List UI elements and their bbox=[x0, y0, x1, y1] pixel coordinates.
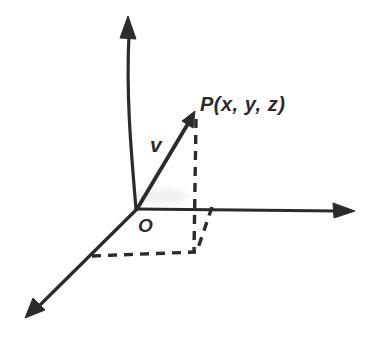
dashed-vertical-drop-line bbox=[194, 119, 196, 252]
horizontal-axis-line bbox=[136, 209, 338, 211]
vector-v-arrowhead-icon bbox=[182, 111, 195, 128]
dashed-slant-line bbox=[197, 207, 212, 251]
vertical-axis-line bbox=[128, 34, 136, 209]
dashed-floor-line bbox=[92, 252, 196, 256]
origin-label: O bbox=[138, 215, 153, 236]
point-label: P(x, y, z) bbox=[200, 93, 285, 115]
vertical-axis-arrowhead-icon bbox=[120, 16, 136, 39]
diagonal-axis-line bbox=[39, 209, 137, 306]
vector-diagram-canvas: P(x, y, z) v O bbox=[0, 0, 368, 342]
vector-label: v bbox=[150, 133, 163, 156]
coordinate-system-figure: P(x, y, z) v O bbox=[0, 0, 368, 342]
horizontal-axis-arrowhead-icon bbox=[333, 203, 355, 218]
